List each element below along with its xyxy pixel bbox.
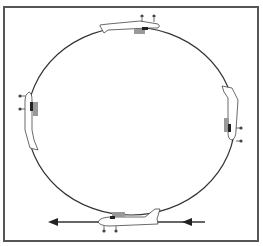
aircraft-left-icon: [18, 92, 38, 150]
aircraft-right-icon: [222, 86, 243, 143]
aircraft-top-icon: [100, 14, 160, 34]
loop-path: [27, 27, 235, 215]
arrow-entry-icon: [182, 218, 192, 226]
loop-diagram: [0, 0, 263, 246]
arrow-left-icon: [48, 218, 58, 226]
